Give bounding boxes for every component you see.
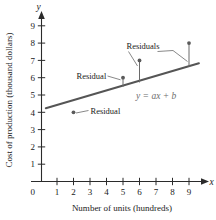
y-tick-label-1: 1 (31, 159, 36, 169)
y-tick-label-3: 3 (31, 125, 36, 135)
data-point (72, 110, 76, 114)
x-axis-title: Number of units (hundreds) (72, 203, 172, 213)
regression-equation-label: y = ax + b (135, 91, 177, 101)
origin-label: 0 (31, 187, 36, 197)
leader-line-residuals-right (158, 51, 188, 62)
data-point (187, 41, 191, 45)
x-tick-label-8: 8 (170, 187, 175, 197)
annotation-residual-upper: Residual (77, 71, 107, 81)
x-tick-label-5: 5 (121, 187, 126, 197)
annotation-residual-lower: Residual (91, 106, 121, 116)
data-point (121, 76, 125, 80)
regression-line (46, 63, 199, 108)
x-tick-label-9: 9 (187, 187, 192, 197)
leader-line-residual-lower (76, 111, 89, 114)
x-axis-variable: x (208, 177, 214, 187)
y-tick-label-6: 6 (31, 73, 36, 83)
x-axis-arrowhead (201, 178, 209, 185)
x-tick-label-6: 6 (137, 187, 142, 197)
leader-line-residual-upper (108, 76, 121, 80)
y-tick-label-8: 8 (31, 38, 36, 48)
y-axis-title: Cost of production (thousand dollars) (4, 33, 14, 168)
y-tick-label-4: 4 (31, 108, 36, 118)
y-tick-label-9: 9 (31, 21, 36, 31)
scatter-plot-residuals: y 1 2 3 4 5 6 7 8 9 x (0, 0, 216, 220)
y-axis-variable: y (35, 2, 41, 12)
annotation-residuals: Residuals (126, 41, 159, 51)
x-tick-label-4: 4 (104, 187, 109, 197)
x-tick-label-7: 7 (154, 187, 159, 197)
x-tick-label-1: 1 (55, 187, 60, 197)
y-tick-label-7: 7 (31, 56, 36, 66)
y-tick-label-2: 2 (31, 142, 36, 152)
chart-figure: y 1 2 3 4 5 6 7 8 9 x (0, 0, 216, 220)
annotation-leaders (76, 51, 188, 114)
leader-line-residuals-left (129, 52, 138, 67)
x-tick-label-3: 3 (88, 187, 93, 197)
x-tick-label-2: 2 (71, 187, 76, 197)
y-tick-label-5: 5 (31, 90, 36, 100)
y-axis-arrowhead (38, 11, 45, 19)
y-axis: y 1 2 3 4 5 6 7 8 9 (31, 2, 46, 182)
data-point (138, 59, 142, 63)
x-axis: x 1 2 3 4 5 6 7 8 9 0 (31, 177, 215, 197)
